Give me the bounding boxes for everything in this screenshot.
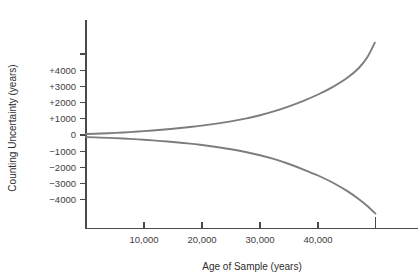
y-tick-label: +1000 bbox=[49, 113, 76, 124]
chart-figure: +4000+3000+2000+10000−1000−2000−3000−400… bbox=[0, 0, 418, 277]
x-axis-title: Age of Sample (years) bbox=[202, 261, 302, 272]
curve-lower-uncertainty bbox=[86, 137, 375, 213]
y-tick-label: −3000 bbox=[49, 178, 76, 189]
y-tick-group bbox=[80, 54, 86, 200]
y-tick-label: +2000 bbox=[49, 97, 76, 108]
y-tick-label-group: +4000+3000+2000+10000−1000−2000−3000−400… bbox=[49, 65, 76, 206]
x-tick-label: 10,000 bbox=[129, 234, 158, 245]
y-tick-label: −1000 bbox=[49, 146, 76, 157]
x-tick-label: 40,000 bbox=[303, 234, 332, 245]
y-axis-title: Counting Uncertainty (years) bbox=[7, 64, 18, 191]
x-tick-label: 20,000 bbox=[187, 234, 216, 245]
y-tick-label: +3000 bbox=[49, 81, 76, 92]
y-tick-label: +4000 bbox=[49, 65, 76, 76]
x-tick-label-group: 10,00020,00030,00040,000 bbox=[129, 234, 332, 245]
data-curves-group bbox=[86, 43, 375, 214]
y-tick-label: −2000 bbox=[49, 162, 76, 173]
chart-plot-svg: +4000+3000+2000+10000−1000−2000−3000−400… bbox=[0, 0, 418, 277]
x-tick-label: 30,000 bbox=[245, 234, 274, 245]
curve-upper-uncertainty bbox=[86, 43, 375, 134]
y-tick-label: −4000 bbox=[49, 194, 76, 205]
x-tick-group bbox=[144, 217, 375, 229]
y-tick-label: 0 bbox=[71, 129, 76, 140]
axes-group bbox=[86, 20, 418, 229]
